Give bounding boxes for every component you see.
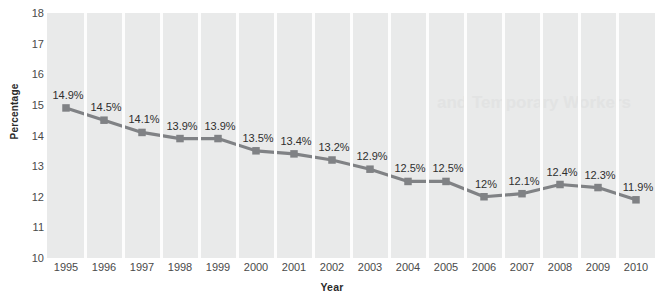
data-point-label: 14.5% bbox=[90, 101, 121, 113]
x-axis-tick: 2010 bbox=[624, 261, 648, 273]
line-chart: Percentage 181716151413121110 and Tempor… bbox=[0, 0, 664, 306]
gridline bbox=[540, 13, 543, 258]
gridline bbox=[236, 13, 239, 258]
gridline bbox=[616, 13, 619, 258]
data-point-marker bbox=[62, 104, 70, 112]
x-axis-tick: 1999 bbox=[206, 261, 230, 273]
data-point-marker bbox=[404, 178, 412, 186]
gridline bbox=[578, 13, 581, 258]
y-axis-tick: 14 bbox=[0, 130, 44, 142]
x-axis-tick: 2004 bbox=[396, 261, 420, 273]
x-axis-title: Year bbox=[0, 281, 664, 293]
gridline bbox=[198, 13, 201, 258]
x-axis-tick: 2007 bbox=[510, 261, 534, 273]
data-point-label: 14.1% bbox=[128, 113, 159, 125]
data-point-label: 13.9% bbox=[166, 120, 197, 132]
y-axis-tick: 18 bbox=[0, 7, 44, 19]
x-axis-tick: 2009 bbox=[586, 261, 610, 273]
data-point-marker bbox=[594, 184, 602, 192]
gridline bbox=[350, 13, 353, 258]
data-point-marker bbox=[480, 193, 488, 201]
data-point-marker bbox=[632, 196, 640, 204]
y-axis-tick: 13 bbox=[0, 160, 44, 172]
x-axis-tick: 2005 bbox=[434, 261, 458, 273]
gridline bbox=[274, 13, 277, 258]
y-axis-tick: 12 bbox=[0, 191, 44, 203]
x-axis-tick: 1996 bbox=[92, 261, 116, 273]
data-point-label: 12% bbox=[475, 178, 497, 190]
data-point-label: 12.4% bbox=[546, 166, 577, 178]
y-axis-tick: 10 bbox=[0, 252, 44, 264]
gridline bbox=[426, 13, 429, 258]
data-point-label: 12.5% bbox=[394, 162, 425, 174]
data-point-marker bbox=[290, 150, 298, 158]
x-axis-tick: 2002 bbox=[320, 261, 344, 273]
data-point-label: 12.1% bbox=[508, 175, 539, 187]
data-point-marker bbox=[442, 178, 450, 186]
gridline bbox=[388, 13, 391, 258]
y-axis-tick: 17 bbox=[0, 38, 44, 50]
data-point-label: 13.5% bbox=[242, 132, 273, 144]
x-axis-tick: 2006 bbox=[472, 261, 496, 273]
x-axis-tick: 2008 bbox=[548, 261, 572, 273]
data-point-marker bbox=[214, 135, 222, 143]
data-point-marker bbox=[556, 181, 564, 189]
x-axis-tick: 1995 bbox=[54, 261, 78, 273]
gridline bbox=[464, 13, 467, 258]
gridline bbox=[502, 13, 505, 258]
data-point-marker bbox=[176, 135, 184, 143]
data-point-marker bbox=[252, 147, 260, 155]
gridline bbox=[312, 13, 315, 258]
x-axis-tick-labels: 1995199619971998199920002001200220032004… bbox=[47, 261, 655, 279]
y-axis-tick: 11 bbox=[0, 221, 44, 233]
data-point-label: 12.5% bbox=[432, 162, 463, 174]
plot-area: and Temporary Workers 14.9%14.5%14.1%13.… bbox=[47, 13, 655, 258]
data-point-marker bbox=[518, 190, 526, 198]
gridline bbox=[84, 13, 87, 258]
data-point-label: 13.2% bbox=[318, 141, 349, 153]
gridline bbox=[160, 13, 163, 258]
y-axis-tick: 16 bbox=[0, 68, 44, 80]
data-point-label: 11.9% bbox=[623, 181, 653, 193]
data-point-label: 14.9% bbox=[52, 89, 83, 101]
y-axis-tick-labels: 181716151413121110 bbox=[0, 0, 44, 306]
data-point-marker bbox=[100, 116, 108, 124]
x-axis-tick: 2001 bbox=[282, 261, 306, 273]
x-axis-tick: 1998 bbox=[168, 261, 192, 273]
data-point-label: 13.4% bbox=[280, 135, 311, 147]
x-axis-tick: 1997 bbox=[130, 261, 154, 273]
y-axis-tick: 15 bbox=[0, 99, 44, 111]
data-point-marker bbox=[328, 156, 336, 164]
data-point-marker bbox=[138, 129, 146, 137]
data-point-label: 12.9% bbox=[356, 150, 387, 162]
x-axis-tick: 2003 bbox=[358, 261, 382, 273]
x-axis-tick: 2000 bbox=[244, 261, 268, 273]
data-point-label: 12.3% bbox=[584, 169, 615, 181]
gridline bbox=[122, 13, 125, 258]
data-point-label: 13.9% bbox=[204, 120, 235, 132]
data-point-marker bbox=[366, 165, 374, 173]
